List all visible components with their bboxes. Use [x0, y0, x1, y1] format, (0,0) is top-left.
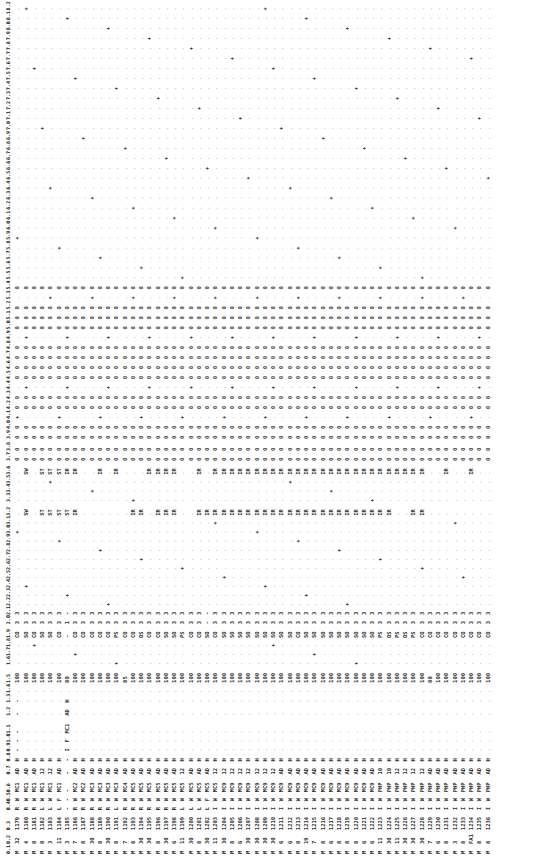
table-cell: . — [327, 80, 335, 90]
table-cell: . — [244, 80, 252, 90]
table-cell: 0 — [30, 319, 38, 329]
table-cell: 0 — [310, 319, 318, 329]
table-cell: 0 — [467, 309, 475, 319]
table-cell: IR — [310, 461, 318, 475]
table-cell: M — [286, 844, 294, 854]
table-row: M61211IWMC9ADH......100...SO33..........… — [277, 0, 285, 854]
table-cell: . — [63, 484, 71, 493]
table-cell: . — [376, 30, 384, 40]
table-cell: . — [79, 502, 87, 516]
table-cell: . — [170, 90, 178, 100]
table-cell: + — [343, 20, 351, 30]
table-cell: . — [220, 270, 228, 280]
table-cell: . — [368, 130, 376, 140]
table-cell: H — [368, 752, 376, 762]
table-cell: . — [38, 210, 46, 220]
table-cell: M — [459, 844, 467, 854]
table-cell: . — [418, 570, 426, 579]
table-cell: 0 — [253, 389, 261, 399]
table-cell: 0 — [154, 389, 162, 399]
table-cell: . — [228, 552, 236, 561]
table-cell: 0 — [22, 299, 30, 309]
table-cell: . — [211, 525, 219, 534]
table-cell: 0 — [203, 309, 211, 319]
table-cell: 0 — [112, 429, 120, 439]
table-cell: . — [22, 703, 30, 716]
table-cell: 11 — [393, 830, 401, 844]
table-cell: 100 — [228, 665, 236, 683]
table-cell: 8 — [484, 830, 492, 844]
table-cell: L — [46, 801, 54, 810]
table-row: M111199LWMC512H......100...PS33....+....… — [178, 0, 186, 854]
table-cell: 1221 — [360, 810, 368, 830]
table-cell: 0 — [335, 369, 343, 379]
table-cell: . — [343, 493, 351, 502]
table-cell: . — [244, 50, 252, 60]
table-cell: . — [327, 60, 335, 70]
table-cell: H — [327, 752, 335, 762]
table-cell: 0 — [343, 359, 351, 369]
table-cell: M — [401, 844, 409, 854]
table-cell: . — [467, 516, 475, 525]
table-cell: . — [112, 180, 120, 190]
table-cell: . — [170, 170, 178, 180]
table-cell: 0 — [360, 389, 368, 399]
table-cell: 0 — [286, 439, 294, 451]
table-cell: . — [302, 484, 310, 493]
table-cell: . — [360, 525, 368, 534]
table-cell: . — [195, 409, 203, 419]
table-cell: . — [104, 647, 112, 656]
table-cell: . — [286, 734, 294, 743]
table-cell: . — [145, 270, 153, 280]
table-cell: . — [360, 552, 368, 561]
table-cell: . — [38, 534, 46, 543]
table-cell: . — [459, 493, 467, 502]
table-cell: 3 — [46, 606, 54, 615]
table-cell: 1212 — [286, 810, 294, 830]
table-cell: 6 — [327, 830, 335, 844]
table-cell: . — [409, 70, 417, 80]
table-cell: . — [187, 190, 195, 200]
table-cell: H — [253, 752, 261, 762]
table-cell: . — [335, 120, 343, 130]
table-cell: 0 — [261, 359, 269, 369]
table-cell: . — [442, 90, 450, 100]
table-cell: . — [154, 716, 162, 734]
table-cell: . — [55, 30, 63, 40]
table-cell: . — [187, 70, 195, 80]
table-cell: . — [187, 409, 195, 419]
table-cell: . — [451, 120, 459, 130]
table-cell: . — [459, 516, 467, 525]
table-cell: 0 — [63, 359, 71, 369]
table-cell: 0 — [112, 359, 120, 369]
table-cell: W — [88, 792, 96, 801]
table-cell: . — [269, 170, 277, 180]
table-cell: . — [360, 693, 368, 703]
table-cell: . — [96, 734, 104, 743]
table-cell: . — [261, 180, 269, 190]
table-cell: . — [385, 743, 393, 752]
column-header: 5.5 — [4, 270, 13, 280]
table-cell: H — [112, 752, 120, 762]
table-cell: . — [170, 379, 178, 389]
table-cell: . — [360, 160, 368, 170]
table-cell: SO — [162, 624, 170, 638]
table-cell: . — [343, 588, 351, 597]
table-cell: . — [335, 50, 343, 60]
table-cell: MC3 — [112, 774, 120, 792]
table-cell: . — [327, 150, 335, 160]
table-cell: . — [360, 561, 368, 570]
table-cell: 0 — [253, 309, 261, 319]
table-cell: 6 — [360, 830, 368, 844]
table-cell: . — [236, 484, 244, 493]
table-cell: . — [253, 647, 261, 656]
table-cell: . — [426, 516, 434, 525]
table-cell: . — [385, 110, 393, 120]
table-cell: 0 — [352, 359, 360, 369]
table-cell: + — [187, 329, 195, 339]
table-cell: . — [145, 150, 153, 160]
table-cell: . — [178, 647, 186, 656]
table-row: M31232IWPHPADH......100...CO33.........+… — [451, 0, 459, 854]
table-cell: . — [228, 484, 236, 493]
table-cell: . — [211, 140, 219, 150]
